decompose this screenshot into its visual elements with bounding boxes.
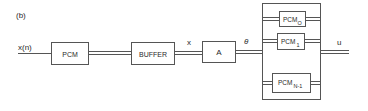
- pcm-n-1-label: PCMN-1: [278, 79, 302, 89]
- input-signal-label: x(n): [18, 43, 32, 52]
- pcm-label: PCM: [62, 51, 78, 58]
- panel-label: (b): [16, 11, 26, 20]
- output-signal-label: u: [337, 38, 341, 47]
- block-diagram: (b) x(n) PCM BUFFER x A θ PCMO PCM1 PCMN…: [0, 0, 368, 111]
- theta-label: θ: [244, 37, 249, 46]
- a-label: A: [216, 48, 222, 57]
- buffer-label: BUFFER: [139, 51, 167, 58]
- pcm-0-label: PCMO: [283, 16, 302, 26]
- pcm-1-label: PCM1: [281, 38, 300, 48]
- buffered-signal-label: x: [187, 38, 191, 47]
